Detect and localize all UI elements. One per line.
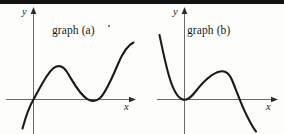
graph-b-curve: [160, 35, 257, 132]
graph-b-plot: [142, 0, 284, 134]
graph-a-plot: [0, 0, 142, 134]
graph-b-x-axis-label: x: [266, 101, 271, 112]
graph-a-x-axis-arrowhead: [129, 97, 136, 103]
graph-b-panel: y x graph (b): [142, 0, 284, 134]
graph-a-x-axis-label: x: [124, 101, 129, 112]
graph-b-y-axis-arrowhead: [182, 7, 188, 14]
graph-b-x-axis-arrowhead: [271, 97, 278, 103]
graph-a-y-axis-label: y: [22, 6, 27, 17]
graph-b-y-axis-label: y: [173, 6, 178, 17]
graph-a-caption: graph (a): [52, 24, 95, 36]
graph-a-curve: [23, 43, 134, 129]
graph-b-caption: graph (b): [187, 24, 230, 36]
graph-a-y-axis-arrowhead: [31, 7, 37, 14]
graph-a-panel: y x graph (a): [0, 0, 142, 134]
figure-container: y x graph (a) y x graph (b): [0, 0, 284, 134]
stray-mark-speck: [108, 25, 110, 27]
